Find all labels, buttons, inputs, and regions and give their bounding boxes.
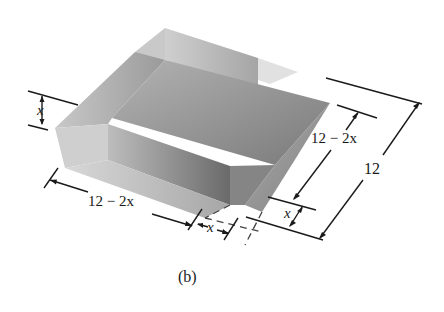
open-box-diagram: x 12 − 2x x 12 − 2x [0,0,444,312]
label-corner-x: x [206,219,214,235]
label-side-12: 12 [364,160,380,177]
label-height-x: x [36,102,44,118]
figure-caption: (b) [178,268,197,286]
label-side-x: x [283,205,291,221]
label-side-12-minus-2x: 12 − 2x [311,130,357,146]
label-base-width: 12 − 2x [88,193,134,209]
dimension-side-12: 12 [319,78,422,239]
